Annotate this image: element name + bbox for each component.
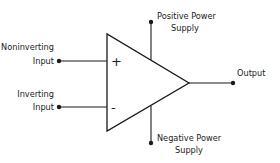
noninverting-label-line2: Input [33,56,55,66]
terminal-dot-icon [57,105,61,109]
terminal-dot-icon [57,59,61,63]
terminal-dot-icon [149,20,153,24]
negative-supply-terminal: Negative Power Supply [149,106,222,155]
negative-supply-label-line2: Supply [175,145,203,155]
inverting-label-line1: Inverting [17,89,54,99]
plus-sign: + [111,54,122,69]
inverting-label-line2: Input [33,102,55,112]
positive-supply-label-line1: Positive Power [157,11,217,21]
minus-sign: - [111,100,116,115]
positive-supply-terminal: Positive Power Supply [149,11,217,60]
positive-supply-label-line2: Supply [171,23,199,33]
noninverting-input-terminal: Noninverting Input + [1,42,122,69]
op-amp-diagram: Noninverting Input + Inverting Input - O… [0,0,280,163]
output-terminal: Output [189,68,266,85]
noninverting-label-line1: Noninverting [1,42,54,52]
output-label: Output [237,68,266,78]
terminal-dot-icon [231,81,235,85]
terminal-dot-icon [149,141,153,145]
inverting-input-terminal: Inverting Input - [17,89,116,115]
op-amp-triangle [107,34,189,131]
negative-supply-label-line1: Negative Power [157,133,222,143]
